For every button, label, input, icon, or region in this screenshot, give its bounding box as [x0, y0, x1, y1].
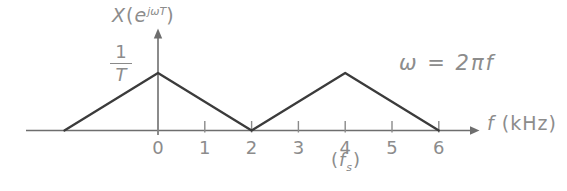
x-tick-label: 0 — [143, 137, 173, 159]
x-axis-label-unit: (kHz) — [495, 112, 557, 134]
x-tick-label: 3 — [283, 137, 313, 159]
x-axis-label: f (kHz) — [487, 114, 557, 133]
x-axis-arrow-icon — [470, 126, 480, 134]
fraction-denominator: T — [116, 64, 127, 84]
figure-svg — [0, 0, 567, 191]
y-axis-label-symbol: X — [112, 4, 126, 26]
x-tick-label: 5 — [377, 137, 407, 159]
x-tick-label: 6 — [424, 137, 454, 159]
peak-value-label: 1 T — [103, 43, 139, 84]
x-tick-label: 1 — [190, 137, 220, 159]
y-axis-arrow-icon — [154, 29, 162, 39]
y-axis-label-exponent: jωT — [147, 5, 166, 18]
fraction-numerator: 1 — [110, 43, 131, 64]
y-axis-label: X(ejωT) — [112, 6, 175, 25]
x-axis-label-symbol: f — [487, 112, 495, 134]
x-tick-label: 4 — [330, 137, 360, 159]
equation-annotation: ω = 2πf — [399, 53, 495, 74]
x-tick-label: 2 — [237, 137, 267, 159]
spectrum-figure: X(ejωT) 1 T ω = 2πf f (kHz) (fs) 0123456 — [0, 0, 567, 191]
y-axis — [154, 29, 162, 136]
